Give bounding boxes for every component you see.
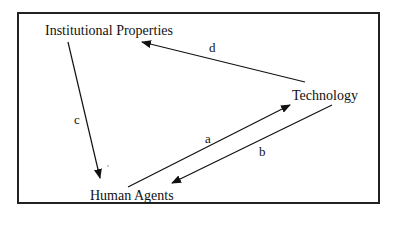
arrow-b [172,105,332,183]
arrow-c [68,42,100,178]
arrow-d [142,42,305,82]
edge-label-c: c [74,112,80,127]
node-human-agents: Human Agents [90,188,174,203]
structuration-diagram: Institutional Properties Technology Huma… [0,0,396,226]
edge-label-a: a [205,131,211,146]
edge-label-b: b [259,144,266,159]
node-institutional-properties: Institutional Properties [45,23,173,38]
arrow-a [128,105,290,187]
node-technology: Technology [292,88,358,103]
stray-dot [107,165,109,167]
edge-label-d: d [209,40,216,55]
